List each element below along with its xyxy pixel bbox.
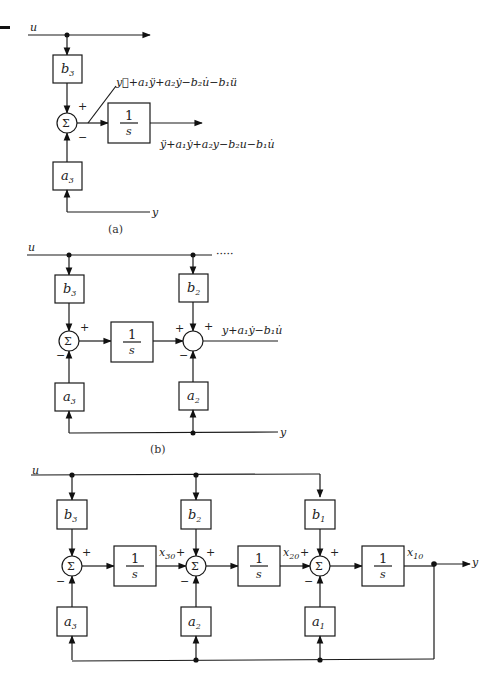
sign-plus: +	[330, 546, 339, 559]
sign-plus: +	[80, 321, 89, 334]
summing-junction-2	[183, 331, 203, 351]
integrator-num: 1	[128, 327, 136, 342]
sign-minus: −	[56, 575, 65, 588]
integrator-den: s	[129, 344, 135, 357]
part-b-diagram: u ····· b3 Σ + − 1 s a3 b2 + + − y+a₁ẏ−	[27, 241, 287, 456]
integrator-den: s	[380, 568, 386, 581]
output-label-y: y	[471, 556, 479, 569]
sum-symbol: Σ	[62, 117, 70, 130]
state-label-x20: x20	[283, 546, 299, 561]
caption-a: (a)	[108, 223, 123, 236]
feedback-label-y: y	[151, 206, 159, 219]
sign-minus: −	[179, 349, 188, 362]
sign-plus: +	[300, 546, 309, 559]
feedback-label-y: y	[279, 426, 287, 439]
block-diagram-figure: u b3 Σ + − y⃛+a₁ÿ+a₂ẏ−b₂u̇−b₁ü 1 s ÿ+a₁ẏ…	[0, 0, 493, 681]
sign-plus: +	[175, 322, 184, 335]
integrator-num: 1	[131, 551, 139, 566]
signal-label-out: ÿ+a₁ẏ+a₂y−b₂u−b₁u̇	[159, 138, 275, 151]
sign-plus: +	[206, 546, 215, 559]
integrator-den: s	[126, 125, 132, 138]
sign-plus: +	[204, 320, 213, 333]
integrator-num: 1	[255, 551, 263, 566]
sum-symbol: Σ	[67, 560, 75, 573]
branch-node	[193, 657, 198, 662]
integrator-num: 1	[125, 108, 133, 123]
state-label-x10: x10	[407, 546, 423, 561]
signal-label-out: y+a₁ẏ−b₁u̇	[221, 324, 282, 337]
sign-plus: +	[176, 546, 185, 559]
page-edge-mark	[0, 26, 10, 29]
sign-plus: +	[82, 546, 91, 559]
signal-label-in: y⃛+a₁ÿ+a₂ẏ−b₂u̇−b₁ü	[115, 76, 237, 89]
sign-plus: +	[78, 100, 87, 113]
continuation-dots: ·····	[216, 248, 233, 261]
state-label-x30: x30	[159, 546, 175, 561]
sum-symbol: Σ	[315, 560, 323, 573]
sum-symbol: Σ	[191, 560, 199, 573]
input-label-u: u	[30, 21, 37, 34]
sign-minus: −	[56, 349, 65, 362]
feedback-line	[69, 432, 278, 433]
integrator-den: s	[132, 568, 138, 581]
integrator-num: 1	[379, 551, 387, 566]
part-a-diagram: u b3 Σ + − y⃛+a₁ÿ+a₂ẏ−b₂u̇−b₁ü 1 s ÿ+a₁ẏ…	[28, 21, 275, 236]
input-label-u: u	[28, 241, 35, 254]
part-c-diagram: u y b3Σ+−1sx30a3b2Σ+−+1sx20a2b1Σ+−+1sx10…	[31, 464, 479, 663]
integrator-den: s	[256, 568, 262, 581]
branch-node	[191, 431, 196, 436]
sign-minus: −	[304, 575, 313, 588]
sign-minus: −	[78, 131, 87, 144]
sign-minus: −	[180, 575, 189, 588]
caption-b: (b)	[150, 443, 166, 456]
feedback-line	[72, 659, 434, 661]
branch-node	[317, 657, 322, 662]
sum-symbol: Σ	[64, 335, 72, 348]
